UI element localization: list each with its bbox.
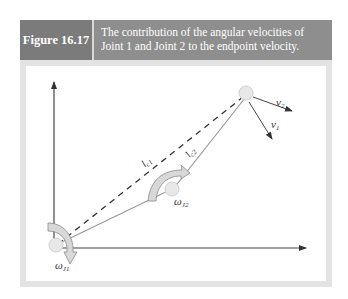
l-c2-label: lc2: [183, 145, 199, 161]
v2-label: v2: [276, 96, 285, 110]
joint-2-icon: [165, 182, 179, 196]
omega-j1-label: ωJ1: [55, 259, 69, 273]
v1-label: v1: [271, 118, 279, 132]
v1-arrow-icon: [249, 102, 272, 139]
endpoint-icon: [239, 86, 253, 100]
v2-arrow-icon: [253, 97, 292, 111]
omega-j2-label: ωJ2: [174, 195, 189, 209]
l-c1-label: lc1: [139, 154, 155, 170]
joint-1-icon: [49, 238, 63, 252]
kinematics-diagram: ωJ1 ωJ2 lc1 lc2 v2 v1: [0, 0, 348, 299]
dashed-reference-line: [58, 97, 243, 244]
